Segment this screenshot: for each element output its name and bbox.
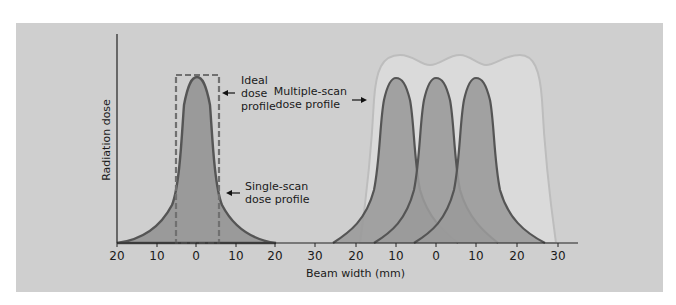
tick-label: 10 — [149, 249, 164, 263]
multiple-scan-annotation: Multiple-scan dose profile — [274, 85, 367, 111]
tick-label: 10 — [468, 249, 483, 263]
svg-text:Multiple-scan: Multiple-scan — [274, 85, 347, 98]
arrow-left-icon — [222, 90, 228, 96]
x-axis-label: Beam width (mm) — [306, 267, 405, 280]
svg-text:dose profile: dose profile — [245, 193, 310, 206]
svg-text:Single-scan: Single-scan — [245, 180, 308, 193]
svg-text:profile: profile — [241, 100, 276, 113]
tick-label: 0 — [192, 249, 200, 263]
tick-label: 10 — [388, 249, 403, 263]
svg-text:dose profile: dose profile — [276, 98, 341, 111]
single-scan-annotation: Single-scan dose profile — [226, 180, 310, 206]
tick-label: 20 — [509, 249, 524, 263]
tick-label: 30 — [307, 249, 322, 263]
tick-label: 30 — [550, 249, 565, 263]
x-tick-labels: 20 10 0 10 20 30 20 10 0 10 20 30 — [109, 249, 565, 263]
svg-text:dose: dose — [241, 87, 267, 100]
svg-text:Ideal: Ideal — [241, 74, 268, 87]
arrow-right-icon — [361, 97, 367, 103]
ideal-dose-annotation: Ideal dose profile — [222, 74, 276, 113]
y-axis-label: Radiation dose — [100, 99, 113, 181]
arrow-left-icon — [226, 190, 232, 196]
tick-label: 20 — [267, 249, 282, 263]
tick-label: 20 — [348, 249, 363, 263]
dose-profile-diagram: 20 10 0 10 20 30 20 10 0 10 20 30 Beam w… — [0, 0, 676, 305]
tick-label: 0 — [432, 249, 440, 263]
tick-label: 20 — [109, 249, 124, 263]
tick-label: 10 — [228, 249, 243, 263]
